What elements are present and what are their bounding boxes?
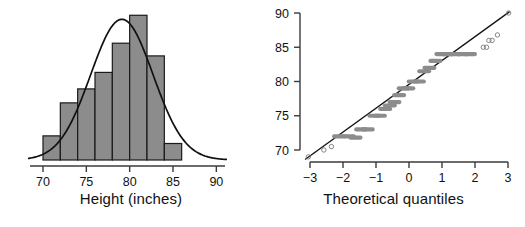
- x-axis-tick-label: 85: [166, 175, 180, 189]
- histogram-bar: [112, 43, 129, 160]
- histogram-panel: 7075808590 Height (inches): [0, 0, 262, 227]
- qq-plot: 7075808590−3−2−10123: [262, 0, 525, 190]
- x-axis-tick-label: 75: [79, 175, 93, 189]
- histogram-bar: [60, 103, 77, 160]
- x-axis-tick-label: 1: [439, 171, 446, 185]
- qq-point-cluster: [349, 136, 363, 140]
- figure-container: 7075808590 Height (inches) 7075808590−3−…: [0, 0, 525, 227]
- qq-point-cluster: [463, 52, 477, 56]
- qq-x-axis-label: Theoretical quantiles: [262, 190, 525, 207]
- x-axis-tick-label: 70: [36, 175, 50, 189]
- histogram-plot: 7075808590: [0, 0, 262, 190]
- qq-x-axis: −3−2−10123: [303, 162, 512, 185]
- y-axis-tick-label: 70: [275, 144, 289, 158]
- qq-point: [329, 144, 333, 148]
- qq-point-cluster: [387, 100, 401, 104]
- x-axis-tick-label: 90: [209, 175, 223, 189]
- x-axis-tick-label: −3: [303, 171, 317, 185]
- qq-y-axis: 7075808590: [275, 7, 300, 158]
- x-axis-tick-label: 80: [123, 175, 137, 189]
- y-axis-tick-label: 85: [275, 41, 289, 55]
- qq-point-cluster: [428, 59, 442, 63]
- y-axis-tick-label: 75: [275, 109, 289, 123]
- x-axis-tick-label: 0: [406, 171, 413, 185]
- qq-point-cluster: [412, 79, 426, 83]
- histogram-x-axis-label: Height (inches): [0, 190, 262, 207]
- y-axis-tick-label: 90: [275, 7, 289, 21]
- histogram-bar: [95, 72, 112, 160]
- x-axis-tick-label: −1: [369, 171, 383, 185]
- histogram-bars: [43, 15, 182, 160]
- x-axis-tick-label: −2: [336, 171, 350, 185]
- x-axis-tick-label: 3: [505, 171, 512, 185]
- qq-point-cluster: [361, 127, 375, 131]
- qq-panel: 7075808590−3−2−10123 Theoretical quantil…: [262, 0, 525, 227]
- qq-point-cluster: [422, 66, 436, 70]
- histogram-bar: [147, 56, 164, 160]
- qq-point-cluster: [392, 93, 406, 97]
- histogram-x-axis: 7075808590: [30, 166, 225, 189]
- y-axis-tick-label: 80: [275, 75, 289, 89]
- qq-point-cluster: [401, 86, 415, 90]
- histogram-bar: [78, 89, 95, 160]
- qq-point: [495, 33, 499, 37]
- qq-point-cluster: [373, 114, 387, 118]
- qq-point: [322, 148, 326, 152]
- x-axis-tick-label: 2: [472, 171, 479, 185]
- histogram-bar: [164, 144, 181, 161]
